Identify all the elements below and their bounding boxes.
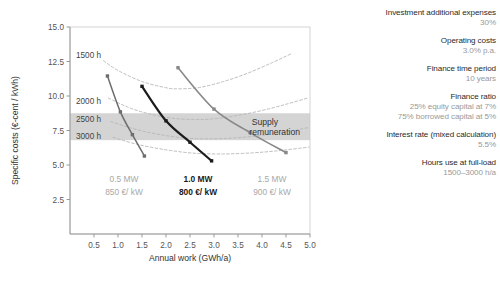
- parameter-name: Investment additional expenses: [352, 8, 496, 18]
- x-tick-label: 2.5: [184, 241, 196, 250]
- y-tick-label: 15.0: [48, 23, 64, 32]
- plant-power-label: 0.5 MW: [110, 174, 139, 184]
- parameter-block: Finance time period10 years: [352, 64, 496, 84]
- parameter-block: Interest rate (mixed calculation)5.5%: [352, 130, 496, 150]
- x-tick-label: 3.5: [232, 241, 244, 250]
- data-point-marker: [143, 154, 146, 157]
- data-point-marker: [210, 159, 213, 162]
- y-axis-title: Specific costs (€-cent / kWh): [10, 76, 20, 185]
- y-tick-label: 12.5: [48, 58, 64, 67]
- parameter-value-secondary: 75% borrowed capital at 5%: [352, 112, 496, 122]
- x-tick-label: 4.5: [280, 241, 292, 250]
- plant-power-label: 1.0 MW: [184, 174, 213, 184]
- x-tick-label: 4.0: [256, 241, 268, 250]
- parameter-value: 5.5%: [352, 140, 496, 150]
- figure-root: 2.55.07.510.012.515.00.51.01.52.02.53.03…: [0, 0, 500, 290]
- data-point-marker: [164, 119, 167, 122]
- parameter-name: Interest rate (mixed calculation): [352, 130, 496, 140]
- plant-cost-label: 800 €/ kW: [179, 187, 217, 197]
- data-point-marker: [284, 151, 287, 154]
- parameter-value: 3.0% p.a.: [352, 46, 496, 56]
- parameter-block: Finance ratio25% equity capital at 7%75%…: [352, 92, 496, 122]
- parameter-value: 1500–3000 h/a: [352, 168, 496, 178]
- parameter-block: Operating costs3.0% p.a.: [352, 36, 496, 56]
- parameter-name: Finance time period: [352, 64, 496, 74]
- iso-hour-label: 3000 h: [76, 132, 101, 141]
- parameter-name: Operating costs: [352, 36, 496, 46]
- plant-cost-label: 900 €/ kW: [253, 187, 291, 197]
- x-tick-label: 1.5: [136, 241, 148, 250]
- iso-hour-label: 2500 h: [76, 115, 101, 124]
- x-axis-title: Annual work (GWh/a): [149, 253, 231, 263]
- iso-hour-label: 1500 h: [76, 51, 101, 60]
- data-point-marker: [188, 141, 191, 144]
- data-point-marker: [140, 85, 143, 88]
- parameters-panel: Investment additional expenses30%Operati…: [352, 8, 496, 185]
- data-point-marker: [119, 110, 122, 113]
- y-tick-label: 2.5: [53, 196, 65, 205]
- y-tick-label: 10.0: [48, 92, 64, 101]
- y-tick-label: 7.5: [53, 127, 65, 136]
- x-tick-label: 0.5: [88, 241, 100, 250]
- y-tick-label: 5.0: [53, 161, 65, 170]
- iso-hour-curve: [104, 54, 291, 89]
- specific-costs-chart: 2.55.07.510.012.515.00.51.01.52.02.53.03…: [0, 0, 345, 290]
- parameter-name: Hours use at full-load: [352, 158, 496, 168]
- band-label-line2: remuneration: [249, 127, 300, 137]
- parameter-name: Finance ratio: [352, 92, 496, 102]
- x-tick-label: 5.0: [304, 241, 316, 250]
- parameter-block: Hours use at full-load1500–3000 h/a: [352, 158, 496, 178]
- data-point-marker: [176, 66, 179, 69]
- plant-cost-label: 850 €/ kW: [105, 187, 143, 197]
- data-point-marker: [131, 133, 134, 136]
- plant-power-label: 1.5 MW: [258, 174, 287, 184]
- x-tick-label: 1.0: [112, 241, 124, 250]
- parameter-block: Investment additional expenses30%: [352, 8, 496, 28]
- parameter-value: 25% equity capital at 7%: [352, 102, 496, 112]
- x-tick-label: 2.0: [160, 241, 172, 250]
- iso-hour-label: 2000 h: [76, 97, 101, 106]
- band-label-line1: Supply: [252, 117, 279, 127]
- parameter-value: 10 years: [352, 74, 496, 84]
- data-point-marker: [212, 107, 215, 110]
- x-tick-label: 3.0: [208, 241, 220, 250]
- parameter-value: 30%: [352, 18, 496, 28]
- data-point-marker: [106, 74, 109, 77]
